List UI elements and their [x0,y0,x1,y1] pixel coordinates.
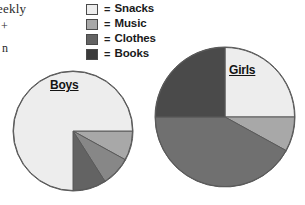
legend-item-music: =Music [86,17,156,31]
legend-item-snacks: =Snacks [86,2,156,16]
margin-text-line-1: eekly [0,1,26,17]
legend-item-books: =Books [86,47,156,61]
pie-chart-girls [155,47,295,187]
legend-label-music: Music [114,18,146,30]
legend-equals-sign: = [104,49,110,60]
margin-text-line-2: + [1,19,8,34]
legend-label-books: Books [114,48,149,60]
margin-text-line-3: n [2,41,8,56]
legend-swatch-music [86,19,98,30]
legend-equals-sign: = [104,19,110,30]
pie-chart-boys-title: Boys [50,78,79,92]
legend-equals-sign: = [104,4,110,15]
legend-item-clothes: =Clothes [86,32,156,46]
legend-swatch-clothes [86,34,98,45]
legend-label-snacks: Snacks [114,3,154,15]
pie-chart-figure: eekly + n =Snacks=Music=Clothes=Books Bo… [0,0,305,205]
legend-swatch-snacks [86,4,98,15]
legend-label-clothes: Clothes [114,33,155,45]
chart-legend: =Snacks=Music=Clothes=Books [86,2,156,61]
pie-chart-girls-svg [155,47,295,187]
legend-swatch-books [86,49,98,60]
pie-chart-girls-title: Girls [229,63,255,77]
legend-equals-sign: = [104,34,110,45]
